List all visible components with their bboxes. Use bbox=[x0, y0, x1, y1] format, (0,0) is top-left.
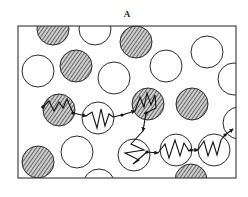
hatched-particle-with-segment bbox=[43, 94, 75, 126]
open-particle-with-segment bbox=[82, 102, 114, 134]
chain-joint-dot bbox=[189, 148, 192, 151]
open-particle bbox=[98, 62, 130, 94]
open-particle-with-segment bbox=[118, 139, 150, 171]
open-particle bbox=[150, 50, 182, 82]
chain-joint-dot bbox=[120, 113, 123, 116]
hatched-particle bbox=[175, 164, 207, 196]
chain-link-arrow bbox=[122, 111, 135, 115]
hatched-particle-with-segment bbox=[132, 88, 164, 120]
hatched-particle bbox=[37, 13, 69, 45]
open-particle bbox=[218, 63, 248, 95]
chain-end-dot bbox=[41, 105, 45, 109]
particle-field bbox=[22, 13, 248, 197]
chain-joint-dot bbox=[223, 133, 226, 136]
open-particle-with-segment bbox=[198, 134, 230, 166]
chain-joint-dot bbox=[145, 150, 148, 153]
particle-chain-diagram: A bbox=[0, 0, 248, 197]
panel-label: A bbox=[124, 9, 131, 19]
hatched-particle bbox=[60, 50, 92, 82]
hatched-particle bbox=[176, 88, 208, 120]
hatched-particle bbox=[22, 146, 54, 178]
open-particle bbox=[79, 13, 111, 45]
chain-joint-dot bbox=[144, 111, 147, 114]
open-particle bbox=[22, 55, 54, 87]
open-particle bbox=[83, 169, 115, 197]
hatched-particle bbox=[120, 26, 152, 58]
open-particle bbox=[61, 136, 93, 168]
open-particle-with-segment bbox=[160, 134, 192, 166]
chain-joint-dot bbox=[71, 111, 74, 114]
open-particle bbox=[191, 36, 223, 68]
